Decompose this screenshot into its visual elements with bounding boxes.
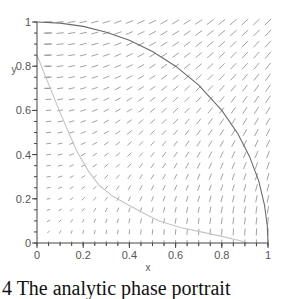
field-arrow <box>162 163 165 168</box>
field-arrow <box>242 19 249 25</box>
field-arrow <box>116 186 119 190</box>
field-arrow <box>115 65 121 68</box>
field-arrow <box>139 141 143 145</box>
field-arrow <box>115 76 121 79</box>
field-arrow <box>233 206 234 213</box>
field-arrow <box>253 30 259 36</box>
field-arrow <box>128 175 131 179</box>
field-arrow <box>243 96 248 102</box>
field-arrow <box>196 97 201 102</box>
field-arrow <box>69 88 75 89</box>
field-arrow <box>140 218 141 223</box>
field-arrow <box>115 131 120 134</box>
field-arrow <box>265 52 271 59</box>
field-arrow <box>58 132 63 133</box>
field-arrow <box>46 165 51 166</box>
field-arrow <box>82 197 85 200</box>
field-arrow <box>265 41 271 48</box>
field-arrow <box>126 21 133 24</box>
field-arrow <box>149 64 155 68</box>
field-arrow <box>242 63 248 69</box>
y-axis-label: y <box>12 64 17 75</box>
field-arrow <box>161 97 166 101</box>
field-arrow <box>162 141 166 146</box>
field-arrow <box>210 218 211 224</box>
field-arrow <box>232 162 235 169</box>
field-arrow <box>243 129 247 136</box>
field-arrow <box>173 86 178 91</box>
field-arrow <box>266 129 270 136</box>
field-arrow <box>195 31 202 36</box>
field-arrow <box>81 153 85 155</box>
field-arrow <box>59 220 62 223</box>
field-arrow <box>254 52 260 59</box>
field-arrow <box>106 230 107 234</box>
field-arrow <box>242 85 247 91</box>
field-arrow <box>161 31 168 35</box>
field-arrow <box>255 151 258 158</box>
field-arrow <box>232 173 234 180</box>
field-arrow <box>116 142 120 145</box>
field-arrow <box>57 55 64 56</box>
field-arrow <box>117 219 118 223</box>
field-arrow <box>115 87 121 90</box>
field-arrow <box>218 19 225 24</box>
field-arrow <box>116 153 120 157</box>
field-arrow <box>185 141 189 146</box>
field-arrow <box>127 153 131 157</box>
field-arrow <box>256 195 258 202</box>
field-arrow <box>172 20 179 24</box>
field-arrow <box>58 187 62 189</box>
field-arrow <box>150 130 154 134</box>
field-arrow <box>69 132 74 134</box>
field-arrow <box>103 98 109 101</box>
field-arrow <box>221 207 222 214</box>
field-arrow <box>81 131 86 133</box>
field-arrow <box>186 174 189 180</box>
field-arrow <box>184 53 190 58</box>
field-arrow <box>150 97 155 101</box>
field-arrow <box>57 88 63 89</box>
field-arrow <box>152 229 153 234</box>
field-arrow <box>104 109 109 112</box>
field-arrow <box>58 176 62 177</box>
y-tick-label: 0.6 <box>16 104 31 116</box>
field-arrow <box>105 208 107 212</box>
field-arrow <box>209 163 212 169</box>
field-arrow <box>220 140 223 146</box>
field-arrow <box>103 21 110 23</box>
field-arrow <box>57 66 64 67</box>
field-arrow <box>92 65 98 67</box>
field-arrow <box>184 20 191 25</box>
field-arrow <box>265 74 270 81</box>
field-arrow <box>209 152 212 158</box>
field-arrow <box>94 230 95 234</box>
field-arrow <box>92 76 98 78</box>
field-arrow <box>115 54 122 57</box>
field-arrow <box>268 217 269 224</box>
field-arrow <box>209 174 211 180</box>
field-arrow <box>172 53 178 57</box>
field-arrow <box>242 30 248 36</box>
field-arrow <box>256 217 257 224</box>
x-ticks: 00.20.40.60.81 <box>34 243 271 261</box>
field-arrow <box>208 108 213 114</box>
field-arrow <box>139 130 143 134</box>
field-arrow <box>197 119 201 125</box>
field-arrow <box>47 231 49 233</box>
field-arrow <box>265 19 271 25</box>
field-arrow <box>93 164 97 167</box>
field-arrow <box>150 119 155 123</box>
field-arrow <box>139 174 142 179</box>
field-arrow <box>267 206 268 213</box>
field-arrow <box>68 66 75 67</box>
field-arrow <box>103 76 109 78</box>
field-arrow <box>106 219 107 223</box>
x-tick-label: 0.2 <box>76 249 91 261</box>
field-arrow <box>187 218 188 224</box>
field-arrow <box>140 185 143 190</box>
field-arrow <box>219 85 224 91</box>
field-arrow <box>244 206 245 213</box>
field-arrow <box>47 198 51 199</box>
